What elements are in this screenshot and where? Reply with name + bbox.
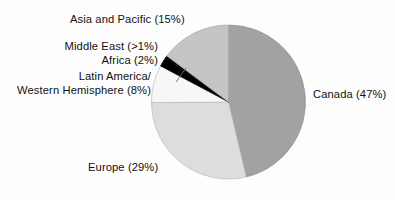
slice-label-middle-east: Middle East (>1%) <box>0 40 158 54</box>
slice-label-latin-america: Latin America/ Western Hemisphere (8%) <box>0 70 151 97</box>
slice-label-asia-pacific: Asia and Pacific (15%) <box>70 13 185 27</box>
slice-label-africa: Africa (2%) <box>0 54 158 68</box>
slice-label-latin-america-line1: Latin America/ <box>0 70 151 84</box>
pie-slices <box>151 25 305 179</box>
pie-chart: Asia and Pacific (15%) Middle East (>1%)… <box>0 0 395 200</box>
slice-label-latin-america-line2: Western Hemisphere (8%) <box>0 84 151 98</box>
slice-label-canada: Canada (47%) <box>313 88 386 102</box>
slice-label-europe: Europe (29%) <box>88 161 158 175</box>
